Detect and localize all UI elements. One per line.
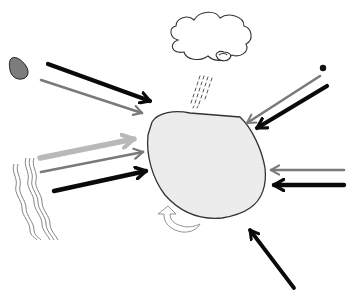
rock-icon: [9, 57, 28, 79]
arrow-upper-right-gray: [247, 76, 320, 123]
arrow-upper-left-black: [48, 64, 150, 101]
arrow-left-black: [54, 171, 146, 191]
arrow-upper-left-gray: [41, 80, 142, 113]
arrow-lower-right-black: [250, 230, 294, 288]
arrow-upper-right-black: [257, 86, 327, 128]
central-body: [148, 112, 266, 219]
diagram-canvas: [0, 0, 355, 301]
dot-icon: [320, 65, 326, 71]
cloud-icon: [171, 12, 251, 61]
rain-icon: [191, 76, 212, 108]
